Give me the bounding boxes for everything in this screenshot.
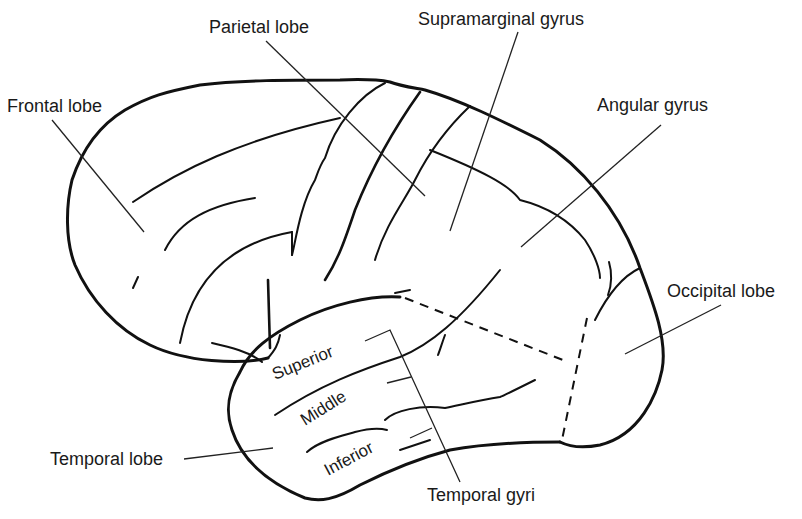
occipital-small-mark <box>608 262 611 295</box>
temporal-gyri-tick-inferior <box>410 428 432 438</box>
frontal-sulcus-lower <box>180 232 292 343</box>
basal-temporal-line <box>400 440 430 450</box>
superior-frontal-sulcus <box>133 118 340 202</box>
supramarginal-gyrus-leader <box>450 32 518 231</box>
sts-branch <box>438 335 445 355</box>
brain-lateral-diagram: Frontal lobe Parietal lobe Supramarginal… <box>0 0 802 519</box>
parietal-lobe-label: Parietal lobe <box>209 17 309 37</box>
parieto-temporal-boundary <box>405 298 568 362</box>
brain-outline <box>67 80 663 447</box>
frontal-lobe-label: Frontal lobe <box>7 96 102 116</box>
temporal-gyri-label: Temporal gyri <box>427 485 535 505</box>
inferior-temporal-sulcus <box>385 380 535 420</box>
occipital-lobe-leader <box>625 305 721 354</box>
temporal-gyri-tick-middle <box>387 377 411 383</box>
inferior-frontal-sulcus <box>165 198 255 250</box>
superior-temporal-sulcus <box>275 270 500 415</box>
central-sulcus <box>325 92 420 280</box>
parieto-occipital-boundary <box>562 318 587 440</box>
temporal-lobe-outline <box>228 297 560 500</box>
middle-temporal-gyrus-label: Middle <box>297 387 350 430</box>
inferior-temporal-gyrus-label: Inferior <box>321 438 377 480</box>
sts-branch-2 <box>395 290 410 293</box>
precentral-sulcus <box>292 83 385 255</box>
angular-gyrus-label: Angular gyrus <box>597 95 708 115</box>
frontal-small-mark <box>133 277 138 288</box>
superior-temporal-gyrus-label: Superior <box>269 342 336 384</box>
temporal-gyri-leader <box>365 330 460 482</box>
angular-gyrus-leader <box>521 125 661 247</box>
frontal-lobe-leader <box>52 120 144 232</box>
temporal-lobe-label: Temporal lobe <box>50 449 163 469</box>
postcentral-sulcus <box>375 106 470 260</box>
temporal-lobe-leader <box>184 448 273 459</box>
occipital-lobe-label: Occipital lobe <box>667 281 775 301</box>
supramarginal-gyrus-label: Supramarginal gyrus <box>418 9 584 29</box>
occipital-sulcus-upper <box>595 268 640 320</box>
